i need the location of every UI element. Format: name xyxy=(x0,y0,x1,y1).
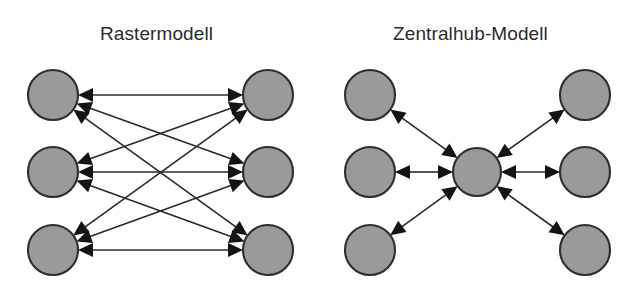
zentralhub-hub-node[interactable] xyxy=(453,148,501,196)
arrow-head-toward-left-node-2 xyxy=(78,165,93,179)
raster-right-node-2[interactable] xyxy=(243,147,293,197)
link-hub-node-to-spoke-node-bottom-left xyxy=(390,186,457,235)
arrow-head-toward-spoke-node-bottom-left xyxy=(390,221,406,235)
arrow-head-toward-right-node-3 xyxy=(228,243,243,257)
raster-left-node-1[interactable] xyxy=(28,70,78,120)
arrow-head-toward-right-node-2 xyxy=(228,179,244,192)
zentralhub-spoke-node-top-left[interactable] xyxy=(345,70,395,120)
arrow-head-toward-hub-node xyxy=(497,144,513,158)
link-left-node-3-to-right-node-3 xyxy=(78,243,243,257)
arrow-head-toward-hub-node xyxy=(501,165,516,179)
raster-left-node-2[interactable] xyxy=(28,147,78,197)
link-hub-node-to-spoke-node-top-right xyxy=(497,110,565,159)
network-topology-graphics xyxy=(0,0,627,292)
arrow-head-toward-right-node-2 xyxy=(228,152,244,165)
raster-left-node-3[interactable] xyxy=(28,225,78,275)
arrow-head-toward-left-node-1 xyxy=(78,88,93,102)
arrow-head-toward-spoke-node-bottom-right xyxy=(548,221,564,235)
link-left-node-3-to-right-node-2 xyxy=(77,179,245,243)
link-hub-node-to-spoke-node-middle-left xyxy=(395,165,453,179)
link-hub-node-to-spoke-node-middle-right xyxy=(501,165,560,179)
arrow-head-toward-spoke-node-top-left xyxy=(390,110,406,124)
arrow-head-toward-spoke-node-top-right xyxy=(548,110,564,124)
arrow-head-toward-spoke-node-middle-left xyxy=(395,165,410,179)
link-line xyxy=(507,194,554,228)
arrow-head-toward-left-node-2 xyxy=(77,152,93,165)
link-hub-node-to-spoke-node-bottom-right xyxy=(496,186,564,235)
link-left-node-2-to-right-node-1 xyxy=(77,102,245,165)
link-line xyxy=(401,194,447,228)
arrow-head-toward-right-node-1 xyxy=(228,88,243,102)
link-line xyxy=(401,117,447,150)
link-line xyxy=(507,117,554,150)
arrow-head-toward-right-node-2 xyxy=(228,165,243,179)
arrow-head-toward-hub-node xyxy=(441,144,457,158)
arrow-head-toward-left-node-3 xyxy=(78,243,93,257)
arrow-head-toward-hub-node xyxy=(496,186,512,200)
zentralhub-spoke-node-middle-right[interactable] xyxy=(560,147,610,197)
link-hub-node-to-spoke-node-top-left xyxy=(390,110,457,158)
zentralhub-spoke-node-bottom-left[interactable] xyxy=(345,225,395,275)
zentralhub-spoke-node-bottom-right[interactable] xyxy=(560,225,610,275)
raster-right-node-1[interactable] xyxy=(243,70,293,120)
diagram-canvas: Rastermodell Zentralhub-Modell xyxy=(0,0,627,292)
arrow-head-toward-hub-node xyxy=(441,186,457,200)
arrow-head-toward-left-node-2 xyxy=(77,179,93,192)
arrow-head-toward-spoke-node-middle-right xyxy=(545,165,560,179)
arrow-head-toward-hub-node xyxy=(438,165,453,179)
link-left-node-1-to-right-node-1 xyxy=(78,88,243,102)
raster-right-node-3[interactable] xyxy=(243,225,293,275)
zentralhub-spoke-node-top-right[interactable] xyxy=(560,70,610,120)
zentralhub-spoke-node-middle-left[interactable] xyxy=(345,147,395,197)
